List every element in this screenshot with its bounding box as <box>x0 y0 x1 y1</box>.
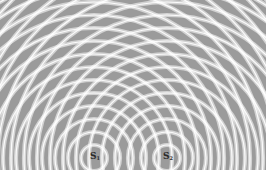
source-label-s2: S2 <box>163 152 173 161</box>
interference-diagram: S1 S2 <box>0 0 266 170</box>
wavefront-pattern <box>0 0 266 170</box>
source-label-s1: S1 <box>90 152 100 161</box>
